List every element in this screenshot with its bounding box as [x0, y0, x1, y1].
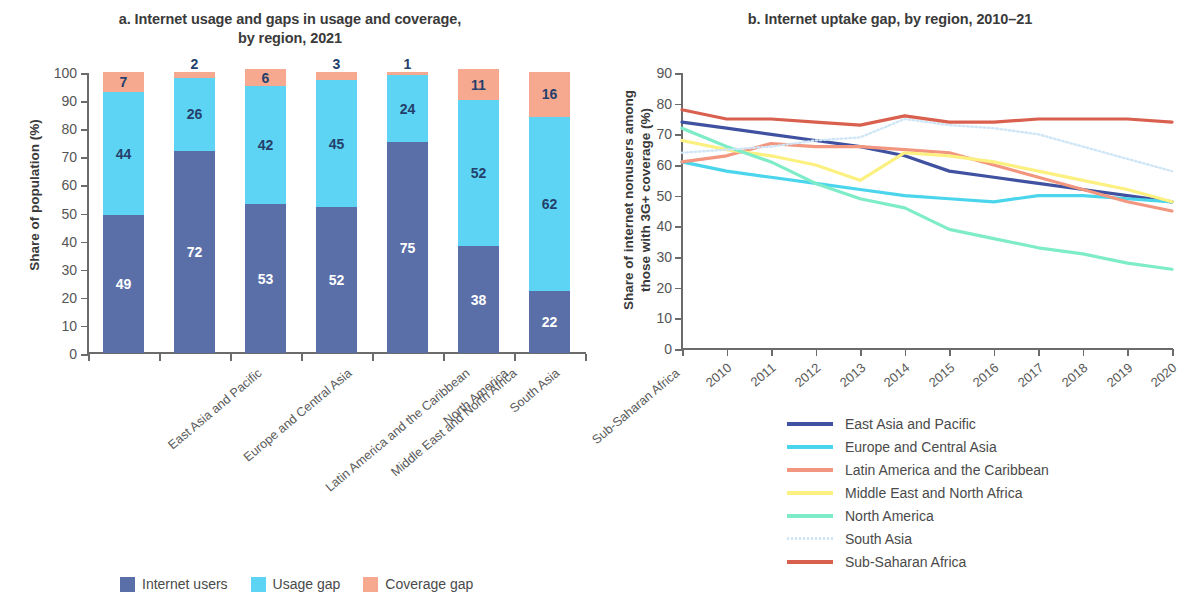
chart-a-x-tick-mark [443, 354, 445, 361]
chart-a-y-tick-mark [81, 101, 88, 103]
chart-a-y-tick-label: 100 [43, 66, 77, 80]
bar-segment-value: 49 [103, 277, 144, 291]
chart-a-plot-area: 010203040506070809010074449East Asia and… [88, 73, 585, 353]
stacked-bar: 166222 [529, 72, 570, 353]
legend-line-swatch-icon [787, 491, 833, 495]
chart-a-legend-label: Coverage gap [385, 576, 473, 592]
chart-b-y-tick-label: 70 [638, 127, 672, 141]
bar-segment-value: 52 [316, 273, 357, 287]
chart-a-legend-item: Coverage gap [363, 576, 473, 592]
chart-b-legend-label: Sub-Saharan Africa [845, 555, 966, 569]
chart-b-x-tick-mark [1038, 349, 1040, 356]
chart-a-legend-item: Internet users [120, 576, 228, 592]
legend-swatch-icon [251, 577, 266, 592]
chart-b-x-tick-mark [727, 349, 729, 356]
bar-segment-usage: 52 [458, 100, 499, 246]
chart-a-y-tick-mark [81, 214, 88, 216]
bar-segment-usage: 26 [174, 78, 215, 151]
chart-b-legend-label: Middle East and North Africa [845, 486, 1022, 500]
stacked-bar: 74449 [103, 72, 144, 353]
chart-a-title: a. Internet usage and gaps in usage and … [10, 10, 570, 48]
bar-segment-value: 1 [387, 57, 428, 71]
bar-segment-usage: 44 [103, 92, 144, 216]
line-series [682, 162, 1172, 202]
chart-b-y-tick-label: 80 [638, 97, 672, 111]
line-series [682, 122, 1172, 202]
bar-segment-users: 49 [103, 215, 144, 353]
bar-segment-coverage: 11 [458, 69, 499, 100]
bar-segment-value: 75 [387, 241, 428, 255]
legend-line-swatch-icon [787, 422, 833, 426]
chart-b-y-tick-mark [675, 349, 682, 351]
chart-b-legend-label: South Asia [845, 532, 912, 546]
bar-segment-value: 6 [245, 71, 286, 85]
chart-a-y-tick-mark [81, 270, 88, 272]
chart-a-y-tick-label: 70 [43, 150, 77, 164]
chart-b-legend-item: East Asia and Pacific [787, 412, 1049, 435]
stacked-bar: 12475 [387, 72, 428, 353]
chart-a-legend-label: Internet users [142, 576, 228, 592]
bar-segment-users: 38 [458, 246, 499, 353]
bar-segment-value: 24 [387, 102, 428, 116]
chart-b-legend-label: Latin America and the Caribbean [845, 463, 1049, 477]
chart-b-legend-label: Europe and Central Asia [845, 440, 997, 454]
chart-b-y-tick-mark [675, 226, 682, 228]
chart-b-y-tick-mark [675, 257, 682, 259]
chart-b-y-tick-mark [675, 73, 682, 75]
chart-b-x-tick-mark [1127, 349, 1129, 356]
chart-a-x-tick-mark [514, 354, 516, 361]
chart-b-series-lines [682, 73, 1172, 349]
bar-segment-users: 72 [174, 151, 215, 353]
bar-segment-value: 7 [103, 75, 144, 89]
chart-b-x-tick-mark [816, 349, 818, 356]
chart-a-y-tick-mark [81, 326, 88, 328]
chart-a-x-tick-mark [301, 354, 303, 361]
chart-b-y-tick-mark [675, 134, 682, 136]
bar-segment-value: 38 [458, 293, 499, 307]
chart-b-x-tick-mark [1172, 349, 1174, 356]
chart-b-y-tick-label: 50 [638, 189, 672, 203]
panel-internet-usage-bar-chart: a. Internet usage and gaps in usage and … [0, 0, 600, 595]
bar-segment-value: 16 [529, 87, 570, 101]
stacked-bar: 22672 [174, 72, 215, 353]
chart-a-y-tick-mark [81, 185, 88, 187]
chart-a-y-tick-mark [81, 73, 88, 75]
legend-line-swatch-icon [787, 445, 833, 449]
chart-b-x-tick-mark [771, 349, 773, 356]
chart-a-x-tick-mark [88, 354, 90, 361]
chart-b-x-tick-mark [905, 349, 907, 356]
chart-b-legend-item: South Asia [787, 527, 1049, 550]
chart-b-x-tick-mark [949, 349, 951, 356]
bar-segment-coverage: 6 [245, 69, 286, 86]
legend-line-swatch-icon [787, 537, 833, 540]
chart-a-y-tick-label: 50 [43, 207, 77, 221]
chart-a-y-tick-mark [81, 129, 88, 131]
bar-segment-usage: 62 [529, 117, 570, 291]
chart-a-y-tick-label: 20 [43, 291, 77, 305]
chart-b-title: b. Internet uptake gap, by region, 2010–… [630, 10, 1150, 29]
bar-segment-value: 53 [245, 272, 286, 286]
bar-segment-coverage: 16 [529, 72, 570, 117]
chart-b-y-tick-label: 20 [638, 281, 672, 295]
chart-b-x-tick-mark [860, 349, 862, 356]
stacked-bar: 34552 [316, 72, 357, 353]
bar-segment-value: 11 [458, 78, 499, 92]
chart-a-y-tick-label: 80 [43, 122, 77, 136]
chart-b-legend-item: Europe and Central Asia [787, 435, 1049, 458]
legend-swatch-icon [363, 577, 378, 592]
chart-a-y-tick-mark [81, 242, 88, 244]
chart-a-y-tick-mark [81, 354, 88, 356]
bar-segment-usage: 42 [245, 86, 286, 204]
chart-b-x-tick-mark [1083, 349, 1085, 356]
chart-b-y-tick-label: 40 [638, 219, 672, 233]
chart-a-y-tick-label: 90 [43, 94, 77, 108]
chart-b-y-tick-mark [675, 196, 682, 198]
chart-a-y-tick-label: 10 [43, 319, 77, 333]
chart-b-y-tick-mark [675, 104, 682, 106]
chart-b-legend-item: Middle East and North Africa [787, 481, 1049, 504]
bar-segment-value: 52 [458, 166, 499, 180]
bar-segment-value: 2 [174, 57, 215, 71]
chart-a-y-tick-label: 60 [43, 178, 77, 192]
stacked-bar: 115238 [458, 69, 499, 353]
bar-segment-users: 52 [316, 207, 357, 353]
